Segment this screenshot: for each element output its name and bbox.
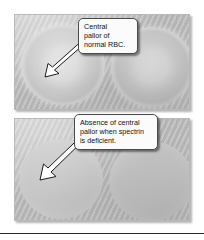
spherocyte-right (109, 141, 190, 221)
bottom-divider-rule (0, 233, 204, 234)
callout-absent-pallor: Absence of central pallor when spectrin … (74, 114, 158, 150)
spherocyte-left (19, 139, 103, 219)
figure-container: Central pallor of normal RBC. Absence of… (0, 0, 204, 240)
callout-normal-pallor: Central pallor of normal RBC. (78, 18, 138, 54)
